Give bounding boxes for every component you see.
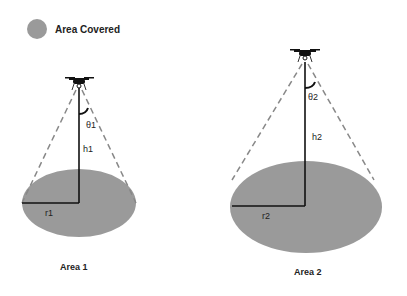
legend-swatch: [27, 19, 47, 39]
angle-label-2: θ2: [308, 92, 318, 102]
legend-label: Area Covered: [55, 24, 120, 35]
area-label-2: Area 2: [294, 267, 322, 277]
radius-label-2: r2: [262, 211, 270, 221]
angle-arc-2: [305, 82, 315, 88]
drone-icon-1: [65, 77, 94, 90]
drone-coverage-diagram: Area Covered θ1 h1 r1 Area 1 θ2 h2 r2: [0, 0, 407, 296]
angle-label-1: θ1: [86, 120, 96, 130]
coverage-area-2: [230, 161, 382, 253]
legend: Area Covered: [27, 19, 120, 39]
angle-arc-1: [79, 108, 88, 114]
scenario-1: θ1 h1 r1 Area 1: [22, 77, 136, 272]
radius-label-1: r1: [45, 208, 53, 218]
height-label-2: h2: [312, 132, 322, 142]
drone-icon-2: [290, 49, 320, 62]
area-label-1: Area 1: [60, 262, 88, 272]
height-label-1: h1: [83, 144, 93, 154]
scenario-2: θ2 h2 r2 Area 2: [230, 49, 382, 277]
